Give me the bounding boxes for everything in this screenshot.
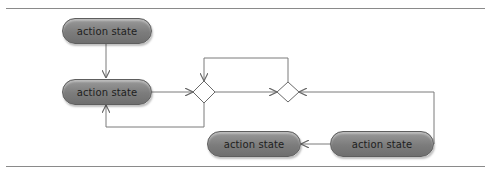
edge-d1-a2 <box>106 103 204 127</box>
edge-d2-d1 <box>204 58 288 82</box>
action-state-label: action state <box>352 139 413 150</box>
merge-diamond <box>277 82 299 102</box>
decision-diamond <box>193 81 215 103</box>
action-state-3: action state <box>207 131 301 157</box>
action-state-2: action state <box>62 79 152 105</box>
action-state-4: action state <box>330 131 434 157</box>
action-state-label: action state <box>224 139 285 150</box>
action-state-label: action state <box>77 26 138 37</box>
action-state-1: action state <box>62 18 152 44</box>
action-state-label: action state <box>77 87 138 98</box>
